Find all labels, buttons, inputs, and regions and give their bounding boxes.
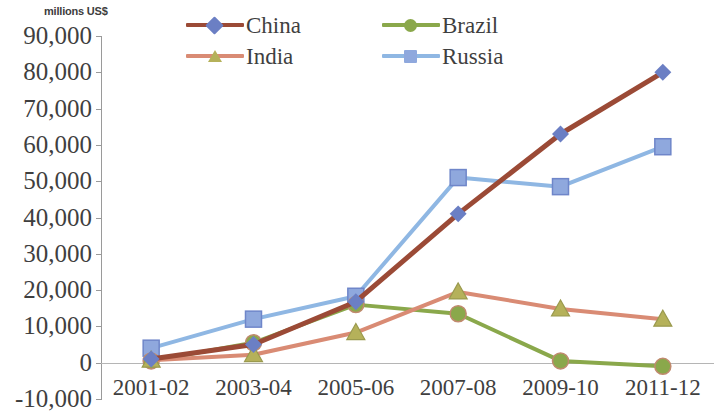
data-point-marker xyxy=(553,179,569,195)
data-point-marker xyxy=(553,353,569,369)
data-point-marker xyxy=(655,139,671,155)
series-india xyxy=(142,283,672,367)
line-chart: millions US$ China Brazil India xyxy=(0,0,728,411)
series-line xyxy=(151,72,663,359)
series-russia xyxy=(143,139,671,356)
series-line xyxy=(151,147,663,348)
series-china xyxy=(143,64,672,368)
series-brazil xyxy=(143,297,671,375)
data-point-marker xyxy=(450,306,466,322)
data-point-marker xyxy=(449,283,467,299)
data-point-marker xyxy=(655,358,671,374)
data-point-marker xyxy=(246,311,262,327)
series-plot xyxy=(0,0,728,411)
data-point-marker xyxy=(450,170,466,186)
